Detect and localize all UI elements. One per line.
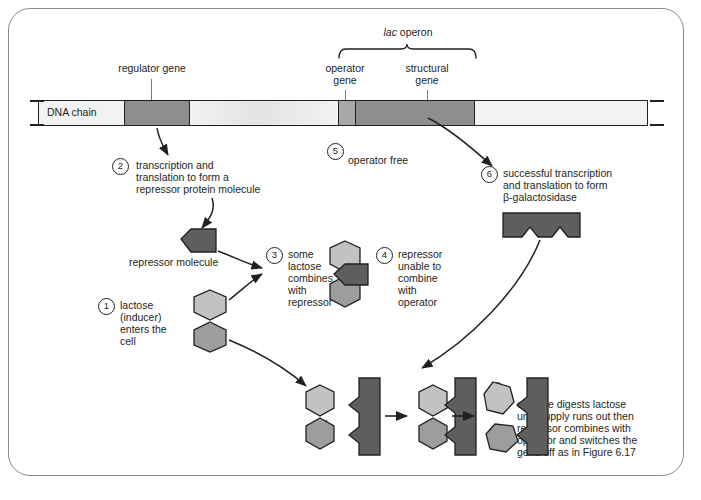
arrow-regulator-to-step2: [157, 128, 168, 155]
bottom-enzyme-1: [349, 378, 380, 455]
arrow-structural-to-step6: [428, 118, 492, 166]
digested-product-lower: [486, 424, 518, 452]
bottom-enzyme-3: [517, 378, 548, 455]
arrow-step2-to-repressor: [202, 198, 213, 228]
arrow-repressor-to-step3: [218, 251, 262, 268]
bottom-lactose-lower-2: [419, 418, 447, 449]
bottom-lactose-upper-1: [306, 385, 334, 416]
digested-product-upper: [484, 382, 514, 414]
lactose-lower-hexagon: [194, 322, 226, 352]
beta-galactosidase-enzyme: [503, 213, 580, 237]
repressor-molecule-shape: [181, 229, 216, 252]
bottom-lactose-lower-1: [306, 418, 334, 449]
bottom-lactose-upper-2: [419, 385, 447, 416]
lactose-upper-hexagon: [194, 290, 226, 320]
arrow-enzyme-to-bottom: [422, 240, 540, 368]
arrow-lactose-to-step3: [229, 274, 262, 300]
diagram-vector-layer: [0, 0, 701, 500]
arrow-lactose-to-bottom: [229, 340, 306, 386]
